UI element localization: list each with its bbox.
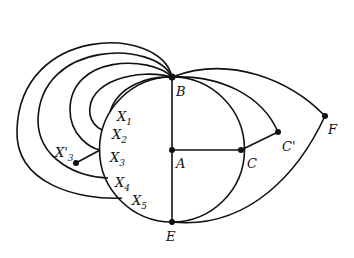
label-e: E bbox=[165, 229, 176, 244]
label-a: A bbox=[175, 156, 185, 171]
vertex-a bbox=[169, 147, 175, 153]
edge-c-cprime bbox=[241, 132, 278, 150]
graph-diagram: B A E C C' F X1 X2 X3 X'3 X4 X5 bbox=[0, 0, 354, 258]
vertex-e bbox=[169, 219, 175, 225]
label-c: C bbox=[247, 156, 257, 171]
label-x1: X1 bbox=[116, 109, 132, 127]
label-x3: X3 bbox=[109, 150, 125, 168]
edge-x3-x3prime bbox=[76, 150, 100, 163]
label-x2: X2 bbox=[111, 127, 127, 145]
label-b: B bbox=[175, 84, 186, 99]
vertex-f bbox=[322, 113, 328, 119]
vertex-c bbox=[238, 147, 244, 153]
label-cprime: C' bbox=[282, 139, 296, 154]
label-f: F bbox=[327, 122, 338, 137]
vertex-b bbox=[169, 74, 176, 81]
edge-b-x1 bbox=[110, 77, 172, 112]
label-x4: X4 bbox=[114, 175, 130, 193]
label-x5: X5 bbox=[131, 193, 147, 211]
vertex-x3prime bbox=[73, 160, 79, 166]
vertex-cprime bbox=[275, 129, 281, 135]
edge-b-cprime bbox=[172, 77, 278, 132]
edge-b-f bbox=[172, 69, 325, 116]
